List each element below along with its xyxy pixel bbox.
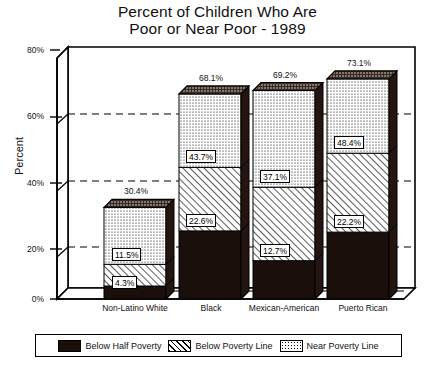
chart-container: Percent of Children Who Are Poor or Near…: [0, 0, 435, 366]
bar-group-black: [179, 86, 249, 299]
bar-total-label-black: 68.1%: [180, 73, 242, 83]
segment-label-below-half-poverty-black: 22.6%: [186, 214, 216, 227]
legend-swatch-solid-icon: [58, 340, 81, 352]
legend-swatch-dots-icon: [280, 340, 303, 352]
legend-label-below-half-poverty: Below Half Poverty: [85, 341, 161, 351]
chart-legend: Below Half Poverty Below Poverty Line Ne…: [35, 334, 402, 357]
bar-total-label-puerto-rican: 73.1%: [328, 58, 390, 68]
segment-label-below-poverty-line-puerto-rican: 48.4%: [334, 136, 364, 149]
segment-label-below-half-poverty-puerto-rican: 22.2%: [334, 215, 364, 228]
segment-label-below-half-poverty-mexican-american: 12.7%: [260, 244, 290, 257]
legend-item-near-poverty-line: Near Poverty Line: [280, 340, 379, 352]
legend-label-below-poverty-line: Below Poverty Line: [195, 341, 272, 351]
x-tick-label-mexican-american: Mexican-American: [236, 303, 332, 313]
legend-label-near-poverty-line: Near Poverty Line: [307, 341, 379, 351]
segment-label-below-poverty-line-black: 43.7%: [186, 150, 216, 163]
bar-group-mexican-american: [253, 83, 323, 300]
bar-group-puerto-rican: [327, 71, 397, 299]
bar-total-label-non-latino-white: 30.4%: [105, 186, 167, 196]
x-tick-label-puerto-rican: Puerto Rican: [324, 303, 402, 313]
x-tick-label-non-latino-white: Non-Latino White: [75, 303, 195, 313]
x-tick-label-black: Black: [180, 303, 242, 313]
legend-item-below-half-poverty: Below Half Poverty: [58, 340, 161, 352]
bar-total-label-mexican-american: 69.2%: [254, 70, 316, 80]
segment-label-below-half-poverty-non-latino-white: 4.3%: [112, 276, 137, 289]
segment-label-below-poverty-line-mexican-american: 37.1%: [260, 170, 290, 183]
legend-swatch-hatch-icon: [168, 340, 191, 352]
legend-item-below-poverty-line: Below Poverty Line: [168, 340, 272, 352]
segment-label-below-poverty-line-non-latino-white: 11.5%: [112, 248, 141, 261]
